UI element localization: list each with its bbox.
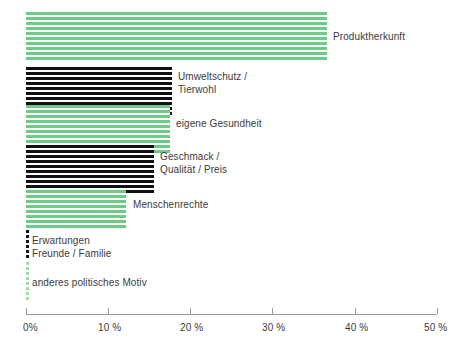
bar-menschenrechte (26, 190, 126, 228)
x-tick-label-50: 50 % (424, 322, 447, 333)
bar-label-geschmack-qualitaet-preis: Geschmack / Qualität / Preis (160, 150, 227, 176)
bar-label-produktherkunft: Produktherkunft (333, 30, 405, 43)
bar-erwartungen-freunde-familie (26, 230, 29, 258)
plot-area: Produktherkunft Umweltschutz / Tierwohl … (0, 0, 472, 312)
bar-geschmack-qualitaet-preis (26, 145, 154, 195)
x-tick-label-20: 20 % (180, 322, 203, 333)
x-tick-label-30: 30 % (262, 322, 285, 333)
bar-produktherkunft (26, 12, 327, 62)
bar-chart: Produktherkunft Umweltschutz / Tierwohl … (0, 0, 472, 358)
x-tick-label-40: 40 % (345, 322, 368, 333)
bar-label-menschenrechte: Menschenrechte (133, 198, 208, 211)
bar-anderes-politisches-motiv (26, 262, 29, 302)
bar-label-erwartungen-freunde-familie: Erwartungen Freunde / Familie (32, 234, 112, 260)
bar-label-anderes-politisches-motiv: anderes politisches Motiv (32, 276, 147, 289)
bar-label-eigene-gesundheit: eigene Gesundheit (176, 117, 262, 130)
bar-label-umweltschutz-tierwohl: Umweltschutz / Tierwohl (178, 70, 247, 96)
x-axis-line (26, 314, 437, 315)
x-tick-label-10: 10 % (98, 322, 121, 333)
x-tick-label-0: 0% (23, 322, 38, 333)
